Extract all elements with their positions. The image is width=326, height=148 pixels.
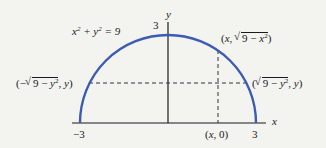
semicircle-diagram xyxy=(0,0,326,148)
top-point-label: (x, 9 − x2) xyxy=(221,32,271,44)
x-tick-3: 3 xyxy=(252,129,258,140)
y-axis-label: y xyxy=(166,9,171,20)
left-point-label: (−9 − y2, y) xyxy=(16,77,73,89)
x-axis-label: x xyxy=(272,116,277,127)
base-point-label: (x, 0) xyxy=(205,129,228,140)
right-point-label: (9 − y2, y) xyxy=(252,77,302,89)
y-tick-3: 3 xyxy=(153,20,159,31)
equation-label: x2 + y2 = 9 xyxy=(72,26,120,37)
x-tick-neg3: −3 xyxy=(73,129,85,140)
